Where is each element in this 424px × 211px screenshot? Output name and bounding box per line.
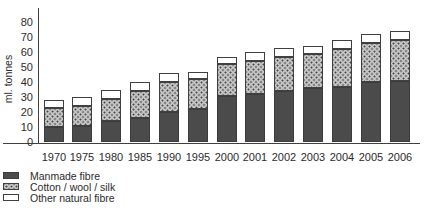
bar-2006-segment-solid	[390, 81, 410, 143]
y-tick-label-10: 10	[0, 121, 33, 133]
bar-2005-segment-white	[361, 34, 381, 43]
legend-swatch-solid	[3, 172, 19, 179]
bar-2000-segment-dots	[217, 64, 237, 96]
bar-1985-segment-dots	[130, 91, 150, 118]
bar-2003-segment-solid	[303, 88, 323, 142]
bar-2005	[361, 34, 381, 142]
bar-1995-segment-solid	[188, 109, 208, 142]
bar-2006-segment-dots	[390, 40, 410, 81]
bar-1980-segment-solid	[101, 121, 121, 142]
bar-1995-segment-dots	[188, 79, 208, 109]
bar-1970-segment-solid	[44, 127, 64, 142]
y-tick-label-60: 60	[0, 46, 33, 58]
bar-2000-segment-white	[217, 57, 237, 65]
legend-item-white: Other natural fibre	[3, 192, 115, 203]
bar-1980-segment-white	[101, 90, 121, 99]
bar-1985	[130, 82, 150, 142]
bar-1990-segment-dots	[159, 82, 179, 112]
legend-item-dots: Cotton / wool / silk	[3, 181, 115, 192]
bar-2001	[245, 52, 265, 142]
legend-label: Other natural fibre	[30, 192, 115, 204]
bar-2002	[274, 48, 294, 143]
y-tick-label-30: 30	[0, 91, 33, 103]
bar-2001-segment-white	[245, 52, 265, 61]
y-tick-label-70: 70	[0, 31, 33, 43]
bar-2004-segment-white	[332, 40, 352, 49]
bar-1970	[44, 100, 64, 142]
bar-2001-segment-dots	[245, 61, 265, 94]
bar-1975-segment-white	[72, 97, 92, 106]
bar-1990-segment-white	[159, 73, 179, 82]
bar-2006	[390, 31, 410, 142]
bar-1990	[159, 73, 179, 142]
bar-1985-segment-solid	[130, 118, 150, 142]
bar-2006-segment-white	[390, 31, 410, 40]
bar-1970-segment-white	[44, 100, 64, 108]
bar-1985-segment-white	[130, 82, 150, 91]
bar-2005-segment-dots	[361, 43, 381, 82]
bar-2004	[332, 40, 352, 142]
bar-1975	[72, 97, 92, 142]
y-tick-label-20: 20	[0, 106, 33, 118]
bar-1980-segment-dots	[101, 99, 121, 122]
bar-2004-segment-solid	[332, 87, 352, 143]
bar-2001-segment-solid	[245, 94, 265, 142]
bar-2000	[217, 57, 237, 143]
x-tick-label-2006: 2006	[382, 151, 418, 163]
fibre-production-stacked-bar-chart: ml. tonnes 01020304050607080 19701975198…	[0, 0, 424, 211]
bar-2003-segment-dots	[303, 54, 323, 89]
bar-2005-segment-solid	[361, 82, 381, 142]
bar-2002-segment-solid	[274, 91, 294, 142]
bar-1970-segment-dots	[44, 108, 64, 128]
legend-item-solid: Manmade fibre	[3, 170, 115, 181]
legend-swatch-dots	[3, 183, 19, 190]
bar-1995-segment-white	[188, 72, 208, 80]
legend-swatch-white	[3, 194, 19, 201]
bar-2000-segment-solid	[217, 96, 237, 143]
y-tick-label-0: 0	[0, 136, 33, 148]
bar-1990-segment-solid	[159, 112, 179, 142]
bar-1975-segment-dots	[72, 106, 92, 126]
x-axis-line	[3, 143, 420, 144]
bar-2003-segment-white	[303, 46, 323, 54]
bar-2003	[303, 46, 323, 142]
y-tick-label-80: 80	[0, 16, 33, 28]
bar-1980	[101, 90, 121, 143]
bar-1995	[188, 72, 208, 143]
bar-2004-segment-dots	[332, 49, 352, 87]
y-axis-line	[38, 8, 39, 144]
bar-2002-segment-dots	[274, 57, 294, 92]
y-tick-label-40: 40	[0, 76, 33, 88]
bar-2002-segment-white	[274, 48, 294, 57]
legend: Manmade fibreCotton / wool / silkOther n…	[3, 170, 115, 203]
y-tick-label-50: 50	[0, 61, 33, 73]
bar-1975-segment-solid	[72, 126, 92, 143]
